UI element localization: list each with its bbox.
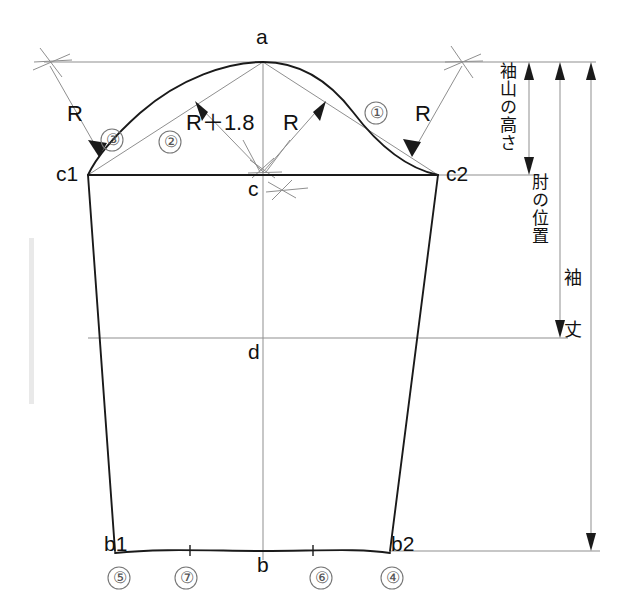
arrow-length-bottom [586, 533, 596, 551]
step-number-two: ② [164, 134, 178, 150]
point-label-a: a [256, 26, 268, 47]
sleeve-pattern-diagram: a c1 c2 c d b1 b2 b R R R＋1.8 R ① ② ③ ④ … [0, 0, 636, 615]
compass-cross-c2-c [266, 188, 308, 192]
compass-cross-c-c [248, 172, 282, 173]
point-label-c: c [248, 178, 259, 199]
dimension-label-cap-height: 袖山の高さ [498, 62, 515, 174]
radius-label-top-right: R [415, 103, 431, 125]
point-label-c2: c2 [446, 163, 468, 184]
arrow-elbow-top [555, 62, 565, 80]
step-number-five: ⑤ [113, 570, 127, 586]
tick-r-plus-to-c [243, 140, 260, 172]
radius-label-top-left: R [67, 103, 83, 125]
point-label-b2: b2 [391, 533, 414, 554]
hem-left [115, 550, 263, 553]
dimension-label-sleeve-length: 袖 丈 [562, 268, 580, 388]
side-seam-right [390, 175, 438, 551]
arrow-length-top [586, 62, 596, 80]
radius-label-r-plus: R＋1.8 [186, 112, 254, 134]
step-number-seven: ⑦ [180, 570, 194, 586]
point-label-b1: b1 [104, 533, 127, 554]
point-label-d: d [248, 341, 260, 362]
side-seam-left [88, 175, 115, 551]
dimension-label-elbow-position: 肘の位置 [530, 173, 547, 339]
tick-r-to-c [266, 140, 290, 172]
hem-right [263, 550, 390, 553]
arrowhead-r-center [313, 101, 326, 121]
radius-label-center: R [283, 112, 299, 134]
step-number-six: ⑥ [315, 570, 329, 586]
step-number-three: ③ [106, 132, 120, 148]
point-label-c1: c1 [56, 163, 78, 184]
arrow-cap-top [524, 62, 534, 80]
step-number-four: ④ [386, 570, 400, 586]
point-label-b: b [257, 554, 269, 575]
step-number-one: ① [370, 105, 384, 121]
